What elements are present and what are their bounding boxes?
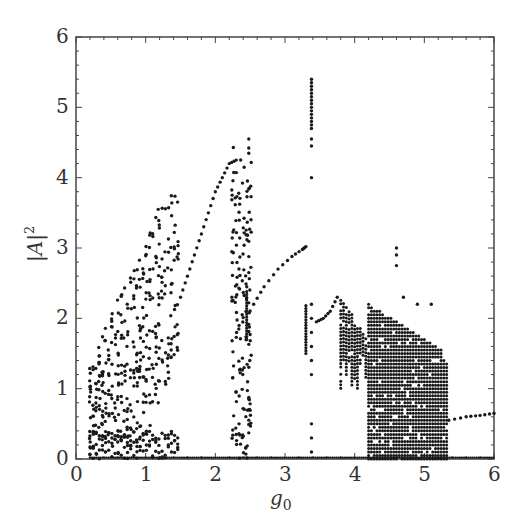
x-tick-label: 0	[70, 462, 83, 486]
scatter-plot	[0, 0, 522, 530]
y-tick-label: 4	[56, 165, 69, 189]
y-tick-label: 1	[56, 376, 69, 400]
x-tick-label: 4	[349, 462, 362, 486]
y-tick-label: 0	[56, 446, 69, 470]
y-tick-label: 5	[56, 94, 69, 118]
x-tick-label: 5	[418, 462, 431, 486]
x-tick-label: 1	[140, 462, 153, 486]
y-tick-label: 6	[56, 24, 69, 48]
x-tick-label: 2	[209, 462, 222, 486]
y-tick-label: 3	[56, 235, 69, 259]
x-axis-label: g0	[270, 486, 292, 513]
y-tick-label: 2	[56, 305, 69, 329]
y-axis-label: |A|2	[22, 226, 47, 262]
x-tick-label: 3	[279, 462, 292, 486]
x-tick-label: 6	[488, 462, 501, 486]
